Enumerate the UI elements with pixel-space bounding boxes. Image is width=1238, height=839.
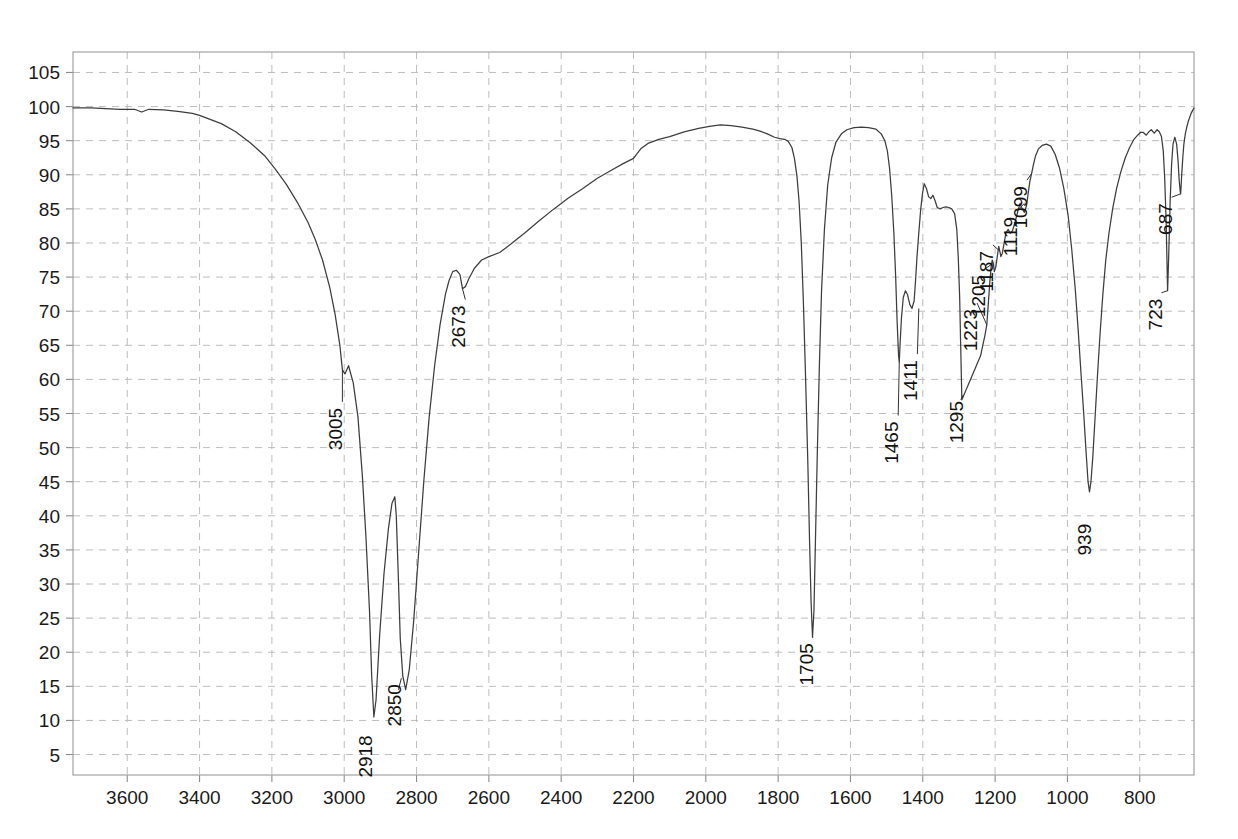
peak-label-1411: 1411 xyxy=(900,360,921,401)
y-tick-label: 30 xyxy=(39,574,60,595)
y-tick-label: 5 xyxy=(49,745,60,766)
x-tick-label: 2000 xyxy=(685,787,727,808)
x-tick-label: 2800 xyxy=(395,787,437,808)
y-tick-label: 10 xyxy=(39,710,60,731)
y-tick-label: 85 xyxy=(39,199,60,220)
x-tick-label: 800 xyxy=(1124,787,1156,808)
y-tick-label: 45 xyxy=(39,472,60,493)
peak-label-939: 939 xyxy=(1074,524,1095,556)
peak-label-723: 723 xyxy=(1145,299,1166,331)
x-tick-label: 2400 xyxy=(540,787,582,808)
y-tick-label: 90 xyxy=(39,165,60,186)
y-tick-label: 80 xyxy=(39,233,60,254)
x-tick-label: 2200 xyxy=(612,787,654,808)
y-tick-label: 35 xyxy=(39,540,60,561)
y-tick-label: 40 xyxy=(39,506,60,527)
y-tick-label: 100 xyxy=(28,97,60,118)
peak-label-3005: 3005 xyxy=(325,408,346,450)
x-axis-tick-labels: 3600340032003000280026002400220020001800… xyxy=(106,787,1156,808)
ir-spectrum-chart: 3600340032003000280026002400220020001800… xyxy=(0,0,1238,839)
peak-label-687: 687 xyxy=(1155,203,1176,235)
y-tick-label: 95 xyxy=(39,131,60,152)
x-tick-label: 1200 xyxy=(974,787,1016,808)
x-tick-label: 1600 xyxy=(829,787,871,808)
peak-label-1099: 1099 xyxy=(1010,186,1031,228)
peak-label-2850: 2850 xyxy=(384,684,405,726)
x-tick-label: 3400 xyxy=(178,787,220,808)
chart-background xyxy=(0,0,1238,839)
peak-label-1705: 1705 xyxy=(796,643,817,685)
x-tick-label: 3000 xyxy=(323,787,365,808)
y-tick-label: 75 xyxy=(39,267,60,288)
x-tick-label: 2600 xyxy=(468,787,510,808)
y-tick-label: 60 xyxy=(39,369,60,390)
spectrum-svg: 3600340032003000280026002400220020001800… xyxy=(0,0,1238,839)
x-tick-label: 1800 xyxy=(757,787,799,808)
y-tick-label: 25 xyxy=(39,608,60,629)
peak-label-2918: 2918 xyxy=(355,735,376,777)
x-tick-label: 1000 xyxy=(1046,787,1088,808)
peak-label-1295: 1295 xyxy=(946,401,967,443)
y-tick-label: 50 xyxy=(39,438,60,459)
peak-label-1187: 1187 xyxy=(976,251,997,292)
x-tick-label: 3600 xyxy=(106,787,148,808)
y-tick-label: 15 xyxy=(39,676,60,697)
x-tick-label: 3200 xyxy=(251,787,293,808)
peak-label-1465: 1465 xyxy=(881,422,902,464)
y-tick-label: 65 xyxy=(39,335,60,356)
x-tick-label: 1400 xyxy=(902,787,944,808)
y-tick-label: 55 xyxy=(39,404,60,425)
peak-label-2673: 2673 xyxy=(448,306,469,348)
y-tick-label: 105 xyxy=(28,62,60,83)
y-tick-label: 20 xyxy=(39,642,60,663)
y-tick-label: 70 xyxy=(39,301,60,322)
